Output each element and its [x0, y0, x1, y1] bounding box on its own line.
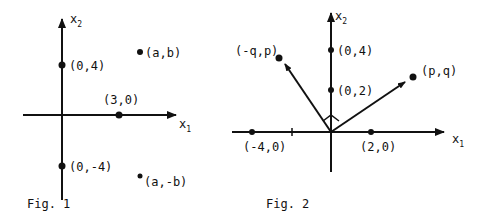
fig2-label-p-q: (p,q)	[421, 64, 457, 78]
figure-2: x2 x1 (0,4) (0,2) (2,0) (-4,0) (p,q) (-q…	[232, 9, 464, 211]
figure-1: x2 x1 (0,4) (3,0) (0,-4) (a,b) (a,-b) Fi…	[23, 12, 191, 211]
fig1-point-3-0	[116, 112, 123, 119]
fig1-point-0-neg4	[59, 163, 66, 170]
fig2-label-0-2: (0,2)	[337, 84, 373, 98]
fig1-label-a-negb: (a,-b)	[144, 175, 187, 189]
fig1-point-a-b	[137, 49, 143, 55]
fig2-label-neg4-0: (-4,0)	[243, 140, 286, 154]
fig2-label-2-0: (2,0)	[360, 140, 396, 154]
fig2-x1-label: x1	[452, 132, 464, 149]
fig1-x2-label: x2	[70, 12, 82, 29]
fig1-point-0-4	[59, 62, 66, 69]
fig2-caption: Fig. 2	[266, 197, 309, 211]
fig1-x1-label: x1	[179, 117, 191, 134]
fig2-point-p-q	[410, 74, 417, 81]
fig2-point-0-2	[328, 87, 334, 93]
fig2-point-2-0	[368, 129, 374, 135]
fig2-x2-label: x2	[335, 9, 347, 26]
fig1-point-a-negb	[138, 174, 143, 179]
fig2-label-0-4: (0,4)	[337, 44, 373, 58]
fig1-label-0-4: (0,4)	[69, 59, 105, 73]
fig1-label-a-b: (a,b)	[145, 46, 181, 60]
fig2-label-negq-p: (-q,p)	[235, 44, 278, 58]
figures-canvas: x2 x1 (0,4) (3,0) (0,-4) (a,b) (a,-b) Fi…	[0, 0, 490, 215]
fig1-label-3-0: (3,0)	[103, 93, 139, 107]
fig1-label-0-neg4: (0,-4)	[69, 160, 112, 174]
fig1-caption: Fig. 1	[27, 197, 70, 211]
fig2-point-0-4	[328, 47, 334, 53]
fig2-point-neg4-0	[249, 129, 255, 135]
fig2-vector-negq-p	[285, 64, 331, 132]
